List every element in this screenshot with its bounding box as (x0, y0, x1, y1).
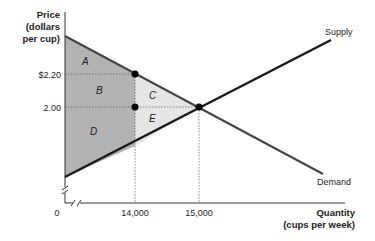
y-axis-title-1: Price (37, 9, 60, 20)
equilibrium-point (196, 104, 203, 111)
y-axis-title-2: (dollars (26, 21, 60, 32)
x-tick-14000: 14,000 (121, 208, 149, 218)
region-d-label: D (90, 126, 97, 137)
region-dark-shade (65, 36, 135, 177)
y-tick-200: 2.00 (43, 103, 61, 113)
demand-label: Demand (317, 177, 351, 187)
x-tick-15000: 15,000 (185, 208, 213, 218)
x-tick-0: 0 (54, 208, 59, 218)
y-tick-220: $2.20 (38, 70, 61, 80)
region-c-label: C (149, 90, 157, 101)
y-axis-title-3: per cup) (23, 33, 60, 44)
region-a-label: A (81, 56, 89, 67)
point-14000-200 (132, 104, 139, 111)
region-b-label: B (96, 85, 103, 96)
supply-label: Supply (325, 27, 353, 37)
surplus-chart: A B D C E Price (dollars per cup) $2.20 … (0, 0, 375, 241)
x-axis-title-1: Quantity (316, 207, 355, 218)
x-axis-title-2: (cups per week) (283, 219, 355, 230)
region-e-label: E (149, 113, 156, 124)
point-14000-220 (132, 71, 139, 78)
